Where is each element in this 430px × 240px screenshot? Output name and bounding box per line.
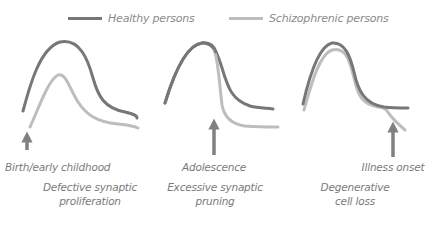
panel-3-mechanism-line2: cell loss <box>315 194 395 208</box>
panel-2-curves <box>165 43 278 155</box>
panel-3-schizophrenic-curve <box>304 49 405 130</box>
panel-3-curves <box>303 43 408 157</box>
panel-2-schizophrenic-curve <box>214 50 278 127</box>
panel-3-healthy-curve <box>303 43 408 108</box>
panel-1-mechanism-line2: proliferation <box>30 194 150 208</box>
panel-1-curves <box>23 42 138 150</box>
panel-2-healthy-overlap <box>165 43 216 103</box>
panel-1-event-label: Birth/early childhood <box>5 160 115 174</box>
panel-3-event-label: Illness onset <box>355 160 430 174</box>
panel-2-mechanism-line1: Excessive synaptic <box>160 180 270 194</box>
panel-1-mechanism-line1: Defective synaptic <box>30 180 150 194</box>
panel-2-event-label: Adolescence <box>174 160 254 174</box>
panel-1-schizophrenic-curve <box>30 75 138 128</box>
panel-2-mechanism-line2: pruning <box>160 194 270 208</box>
panel-3-mechanism-line1: Degenerative <box>315 180 395 194</box>
